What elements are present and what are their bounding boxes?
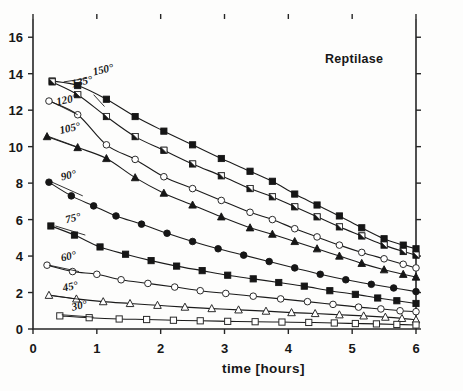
data-point	[375, 295, 381, 301]
data-point	[355, 304, 362, 311]
x-tick-label: 6	[412, 341, 419, 356]
data-point	[197, 287, 204, 294]
data-point	[276, 279, 282, 285]
data-point	[359, 225, 365, 231]
data-point	[118, 276, 125, 283]
data-point	[291, 225, 298, 232]
data-point	[413, 300, 419, 306]
x-tick-label: 3	[221, 341, 228, 356]
data-point	[148, 258, 154, 264]
data-point	[342, 276, 349, 283]
x-axis-title: time [hours]	[222, 361, 305, 376]
data-point	[400, 242, 406, 248]
data-point	[222, 290, 229, 297]
data-point	[336, 213, 342, 219]
data-point	[97, 244, 103, 250]
data-point	[218, 155, 224, 161]
y-tick-label: 10	[9, 140, 23, 155]
series-label: 75°	[64, 210, 82, 225]
data-point	[269, 216, 276, 223]
data-point	[292, 191, 298, 197]
data-point	[352, 320, 358, 326]
data-point	[327, 288, 333, 294]
y-tick-label: 6	[16, 213, 23, 228]
data-point	[250, 276, 256, 282]
data-point	[397, 307, 404, 314]
data-point	[197, 318, 203, 324]
series-curve-150deg	[52, 81, 416, 249]
chart-title: Reptilase	[325, 52, 383, 66]
data-point	[69, 268, 76, 275]
data-point	[199, 268, 205, 274]
data-point	[240, 252, 247, 259]
data-point	[138, 221, 145, 228]
data-point	[304, 298, 311, 305]
curves-layer	[47, 81, 416, 325]
data-point	[116, 316, 122, 322]
data-point	[378, 306, 385, 313]
data-point	[373, 321, 379, 327]
data-point	[46, 98, 53, 105]
data-point	[161, 128, 167, 134]
data-point	[103, 155, 111, 162]
x-tick-label: 5	[349, 341, 356, 356]
data-point	[171, 284, 178, 291]
data-point	[250, 293, 257, 300]
data-point	[413, 246, 419, 252]
y-tick-label: 2	[16, 286, 23, 301]
data-point	[317, 271, 324, 278]
series-leader-line	[49, 137, 79, 148]
data-point	[144, 316, 150, 322]
data-point	[314, 234, 321, 241]
series-label: 150°	[91, 61, 115, 78]
data-point	[218, 197, 225, 204]
data-point	[132, 156, 139, 163]
y-tick-label: 4	[16, 249, 24, 264]
data-point	[381, 236, 387, 242]
chart-plot-area: 150°135°120°105°90°75°60°45°30° 02468101…	[0, 0, 463, 391]
data-point	[45, 291, 53, 298]
data-point	[400, 261, 407, 268]
data-point	[381, 255, 388, 262]
data-point	[352, 291, 358, 297]
data-point	[390, 285, 397, 292]
series-label: 120°	[55, 91, 79, 108]
data-point	[189, 238, 196, 245]
data-point	[161, 173, 168, 180]
data-point	[160, 189, 168, 196]
data-point	[358, 249, 365, 256]
data-point	[413, 265, 420, 272]
series-label: 45°	[60, 278, 79, 294]
data-point	[218, 213, 226, 220]
data-point	[189, 185, 196, 192]
data-point	[113, 213, 120, 220]
data-point	[57, 313, 63, 319]
data-point	[269, 178, 275, 184]
data-point	[413, 288, 420, 295]
y-tick-label: 16	[9, 30, 23, 45]
series-label: 135°	[70, 73, 94, 90]
series-curve-120deg	[49, 101, 416, 268]
data-point	[266, 258, 273, 265]
data-point	[225, 318, 231, 324]
data-point	[394, 321, 400, 327]
data-point	[413, 322, 419, 328]
data-point	[43, 133, 51, 140]
data-point	[86, 315, 92, 321]
x-tick-label: 0	[29, 341, 36, 356]
data-point	[336, 242, 343, 249]
figure-reptilase: 150°135°120°105°90°75°60°45°30° 02468101…	[0, 0, 463, 391]
data-point	[145, 280, 152, 287]
data-point	[291, 265, 298, 272]
x-tick-label: 4	[285, 341, 293, 356]
series-label: 105°	[58, 119, 82, 136]
data-point	[174, 263, 180, 269]
data-point	[94, 271, 101, 278]
y-tick-label: 0	[16, 322, 23, 337]
data-point	[394, 298, 400, 304]
data-point	[314, 202, 320, 208]
series-label: 90°	[59, 167, 77, 182]
y-tick-label: 12	[9, 103, 23, 118]
data-point	[189, 142, 195, 148]
x-tick-label: 2	[157, 341, 164, 356]
